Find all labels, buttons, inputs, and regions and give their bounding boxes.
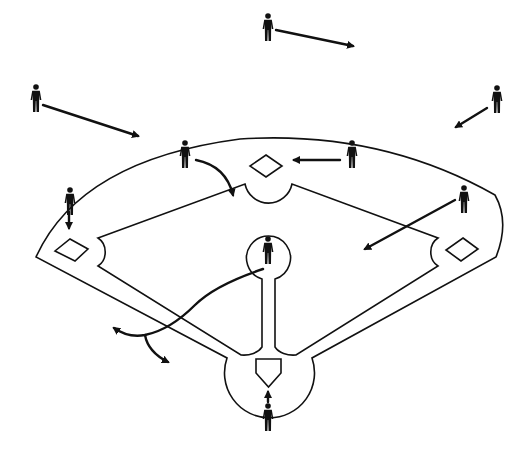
pitcher-arrow [114, 269, 263, 336]
pitcher-icon [263, 236, 274, 264]
first-base [446, 238, 478, 261]
shortstop-icon [180, 140, 191, 168]
bases [55, 155, 478, 387]
movement-arrows [43, 30, 487, 402]
baseball-field-diagram [0, 0, 530, 451]
center-fielder-icon [263, 13, 274, 41]
home-plate [256, 359, 281, 387]
pitcher-arrow-branch [145, 335, 168, 362]
left-fielder-icon [31, 84, 42, 112]
first-baseman-icon [459, 185, 470, 213]
right-fielder-icon [492, 85, 503, 113]
left-fielder-arrow [43, 105, 138, 136]
second-base [250, 155, 282, 177]
center-fielder-arrow [276, 30, 353, 46]
right-fielder-arrow [456, 108, 487, 127]
infield-grass-edge [98, 184, 438, 355]
first-baseman-arrow [365, 200, 455, 249]
third-base [55, 239, 88, 261]
third-baseman-icon [65, 187, 76, 215]
catcher-icon [263, 403, 274, 431]
